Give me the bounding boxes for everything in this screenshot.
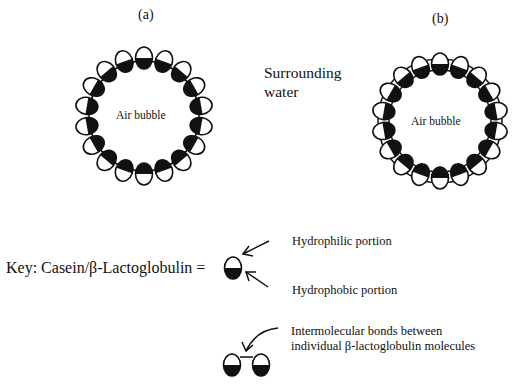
surrounding-water-label: Surrounding water [264, 63, 342, 101]
bonds-line1: Intermolecular bonds between [291, 324, 475, 339]
key-molecule-symbol [225, 257, 242, 279]
panel-a-bubble-label: Air bubble [116, 109, 166, 121]
arrow-bonds [242, 328, 278, 351]
key-bonded-pair-symbol [224, 354, 270, 376]
surrounding-water-line2: water [264, 82, 342, 101]
intermolecular-bonds-label: Intermolecular bonds between individual … [291, 324, 475, 354]
arrow-hydrophobic [246, 272, 268, 287]
bonds-line2: individual β-lactoglobulin molecules [291, 339, 475, 354]
key-prefix: Key: Casein/β-Lactoglobulin = [6, 259, 205, 277]
surrounding-water-line1: Surrounding [264, 63, 342, 82]
hydrophobic-label: Hydrophobic portion [292, 283, 397, 298]
hydrophilic-label: Hydrophilic portion [292, 234, 392, 249]
panel-b-bubble-label: Air bubble [411, 115, 461, 127]
arrow-hydrophilic [243, 241, 269, 256]
